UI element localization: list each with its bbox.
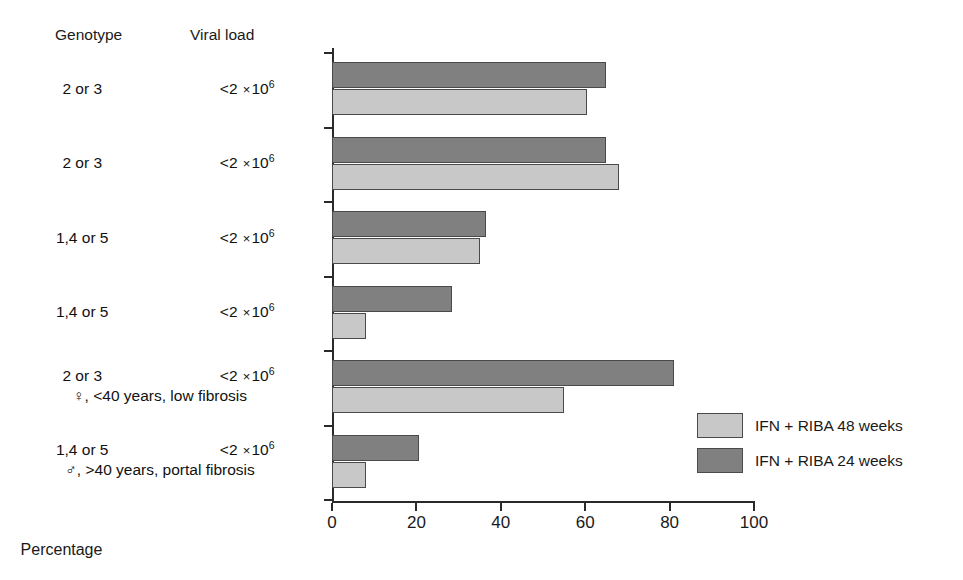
y-axis-tick — [324, 425, 332, 427]
bar — [332, 435, 419, 461]
bar — [332, 462, 366, 488]
row-label: 1,4 or 5<2 ×106♂, >40 years, portal fibr… — [0, 440, 320, 480]
bar — [332, 137, 606, 163]
y-axis-tick — [324, 127, 332, 129]
y-axis-tick — [324, 350, 332, 352]
x-axis-line — [332, 501, 755, 503]
bar — [332, 238, 480, 264]
y-axis-tick — [324, 276, 332, 278]
row-label-viral-load: <2 ×106 — [174, 153, 320, 173]
bar — [332, 164, 619, 190]
row-label-viral-load: <2 ×106 — [174, 440, 320, 460]
bar — [332, 286, 452, 312]
row-label-genotype: 2 or 3 — [0, 153, 174, 173]
chart-legend: IFN + RIBA 48 weeks IFN + RIBA 24 weeks — [697, 413, 903, 483]
bar — [332, 360, 674, 386]
row-label: 1,4 or 5<2 ×106 — [0, 302, 320, 322]
x-axis-tick-label: 0 — [327, 513, 336, 533]
legend-label-24w: IFN + RIBA 24 weeks — [755, 452, 903, 470]
column-header-genotype: Genotype — [55, 26, 122, 44]
x-axis-title: Percentage — [0, 541, 963, 559]
x-axis-title-text: Percentage — [21, 541, 103, 558]
bar — [332, 387, 564, 413]
x-axis-tick-label: 40 — [491, 513, 510, 533]
y-axis-tick — [324, 52, 332, 54]
row-label: 2 or 3<2 ×106 — [0, 79, 320, 99]
row-label: 1,4 or 5<2 ×106 — [0, 228, 320, 248]
bar — [332, 62, 606, 88]
x-axis-tick-label: 60 — [576, 513, 595, 533]
x-axis-tick-label: 20 — [407, 513, 426, 533]
row-label-genotype: 1,4 or 5 — [0, 440, 174, 460]
x-axis-tick-label: 80 — [660, 513, 679, 533]
row-label-genotype: 2 or 3 — [0, 79, 174, 99]
row-label-note: ♂, >40 years, portal fibrosis — [0, 460, 330, 480]
x-axis-tick-label: 100 — [740, 513, 768, 533]
x-axis-tick — [753, 503, 755, 511]
y-axis-tick — [324, 201, 332, 203]
x-axis-tick — [584, 503, 586, 511]
x-axis-tick — [669, 503, 671, 511]
row-label-genotype: 2 or 3 — [0, 366, 174, 386]
row-label-note: ♀, <40 years, low fibrosis — [0, 386, 330, 406]
legend-swatch-48w — [697, 413, 743, 438]
row-label-viral-load: <2 ×106 — [174, 79, 320, 99]
row-label: 2 or 3<2 ×106♀, <40 years, low fibrosis — [0, 366, 320, 406]
row-label-genotype: 1,4 or 5 — [0, 228, 174, 248]
x-axis-tick — [500, 503, 502, 511]
column-header-viral-load: Viral load — [190, 26, 254, 44]
legend-label-48w: IFN + RIBA 48 weeks — [755, 417, 903, 435]
row-label-viral-load: <2 ×106 — [174, 228, 320, 248]
legend-item-24w: IFN + RIBA 24 weeks — [697, 448, 903, 473]
bar — [332, 313, 366, 339]
x-axis-tick — [331, 503, 333, 511]
legend-item-48w: IFN + RIBA 48 weeks — [697, 413, 903, 438]
row-label-viral-load: <2 ×106 — [174, 366, 320, 386]
y-axis-tick — [324, 499, 332, 501]
bar — [332, 211, 486, 237]
legend-swatch-24w — [697, 448, 743, 473]
row-label: 2 or 3<2 ×106 — [0, 153, 320, 173]
x-axis-tick — [415, 503, 417, 511]
chart-figure: Genotype Viral load 2 or 3<2 ×1062 or 3<… — [0, 0, 963, 580]
row-label-viral-load: <2 ×106 — [174, 302, 320, 322]
row-label-genotype: 1,4 or 5 — [0, 302, 174, 322]
bar — [332, 89, 587, 115]
